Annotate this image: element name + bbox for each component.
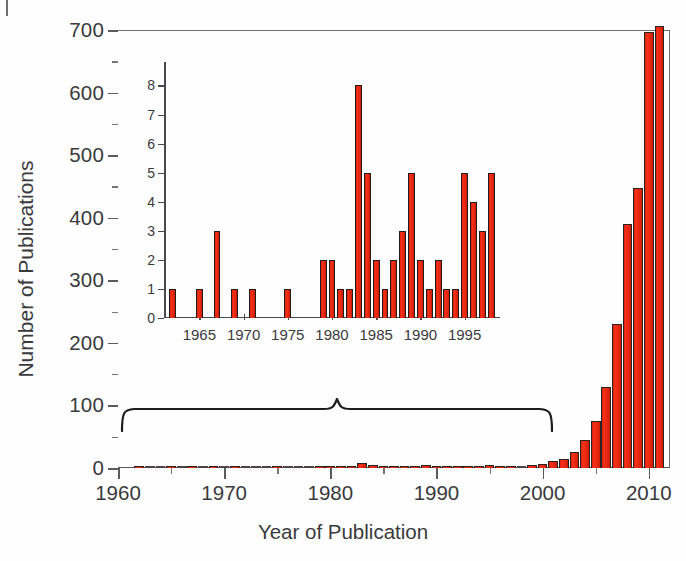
inset-bar	[452, 289, 459, 318]
inset-x-tick-label: 1995	[448, 326, 481, 343]
inset-bar	[488, 173, 495, 318]
inset-bar	[390, 260, 397, 318]
bar	[601, 387, 611, 468]
x-tick-minor	[383, 468, 384, 474]
x-tick	[330, 468, 332, 479]
inset-bar	[382, 289, 389, 318]
x-tick	[649, 468, 651, 479]
y-tick	[108, 93, 118, 95]
inset-bar	[443, 289, 450, 318]
inset-bar	[373, 260, 380, 318]
inset-y-ticks-and-labels: 012345678	[130, 62, 164, 318]
y-tick-label: 700	[69, 18, 104, 42]
bar	[570, 452, 580, 468]
y-tick-label: 600	[69, 81, 104, 105]
inset-chart: 012345678 1965197019751980198519901995	[130, 62, 502, 362]
bar	[644, 32, 654, 468]
inset-y-tick-label: 0	[147, 310, 155, 326]
y-axis-title: Number of Publications	[14, 160, 38, 377]
inset-y-tick-label: 2	[147, 252, 155, 268]
x-tick	[436, 468, 438, 479]
inset-bar	[284, 289, 291, 318]
inset-y-tick-label: 3	[147, 223, 155, 239]
inset-bar	[435, 260, 442, 318]
inset-x-tick-label: 1970	[227, 326, 260, 343]
bar	[612, 324, 622, 468]
inset-bar	[329, 260, 336, 318]
bar	[623, 224, 633, 468]
y-tick-label: 0	[92, 456, 104, 480]
inset-x-ticks-and-labels: 1965197019751980198519901995	[164, 318, 500, 342]
bar	[548, 461, 558, 468]
y-tick-label: 400	[69, 206, 104, 230]
bar	[655, 26, 665, 468]
inset-bar	[214, 231, 221, 318]
inset-x-tick-label: 1985	[360, 326, 393, 343]
y-tick	[108, 468, 118, 470]
inset-bar	[399, 231, 406, 318]
y-tick-label: 200	[69, 331, 104, 355]
x-tick-label: 1980	[307, 481, 353, 505]
x-tick-minor	[490, 468, 491, 474]
y-tick	[108, 405, 118, 407]
x-tick-label: 2000	[520, 481, 566, 505]
y-tick-label: 100	[69, 393, 104, 417]
x-tick-minor	[277, 468, 278, 474]
bar	[580, 440, 590, 468]
inset-bar	[320, 260, 327, 318]
inset-bar	[479, 231, 486, 318]
x-tick-label: 1960	[95, 481, 141, 505]
x-tick	[224, 468, 226, 479]
inset-bar	[470, 202, 477, 318]
inset-bar	[196, 289, 203, 318]
inset-x-tick-label: 1975	[271, 326, 304, 343]
inset-bar	[169, 289, 176, 318]
y-tick	[108, 343, 118, 345]
inset-x-tick-label: 1990	[404, 326, 437, 343]
y-tick	[108, 30, 118, 32]
inset-y-tick-label: 6	[147, 136, 155, 152]
x-tick	[543, 468, 545, 479]
inset-y-tick-label: 5	[147, 165, 155, 181]
bar	[591, 421, 601, 468]
inset-bar	[461, 173, 468, 318]
x-axis-title: Year of Publication	[0, 520, 686, 544]
inset-bar	[355, 85, 362, 318]
x-axis: 196019701980199020002010	[118, 468, 670, 528]
inset-bar	[231, 289, 238, 318]
inset-bar	[346, 289, 353, 318]
inset-bar	[337, 289, 344, 318]
figure-root: 0100200300400500600700 Number of Publica…	[0, 0, 686, 561]
y-tick-label: 500	[69, 143, 104, 167]
x-tick	[118, 468, 120, 479]
inset-x-tick-label: 1980	[315, 326, 348, 343]
inset-y-tick-label: 1	[147, 281, 155, 297]
y-tick-label: 300	[69, 268, 104, 292]
inset-y-tick-label: 8	[147, 77, 155, 93]
x-tick-label: 2010	[626, 481, 672, 505]
x-tick-minor	[171, 468, 172, 474]
y-tick	[108, 218, 118, 220]
bar	[559, 459, 569, 468]
x-tick-label: 1990	[414, 481, 460, 505]
y-tick	[108, 155, 118, 157]
inset-bar	[364, 173, 371, 318]
x-tick-minor	[596, 468, 597, 474]
inset-y-tick-label: 4	[147, 194, 155, 210]
bar	[633, 188, 643, 468]
inset-bar-series	[164, 68, 500, 318]
x-tick-label: 1970	[201, 481, 247, 505]
inset-bar	[426, 289, 433, 318]
scan-artifact-mark	[6, 0, 8, 16]
inset-bar	[417, 260, 424, 318]
inset-x-tick-label: 1965	[183, 326, 216, 343]
inset-bar	[408, 173, 415, 318]
inset-bar	[249, 289, 256, 318]
y-tick	[108, 280, 118, 282]
inset-plot-area	[164, 68, 500, 318]
y-axis-title-container: Number of Publications	[28, 30, 30, 468]
inset-y-tick-label: 7	[147, 107, 155, 123]
